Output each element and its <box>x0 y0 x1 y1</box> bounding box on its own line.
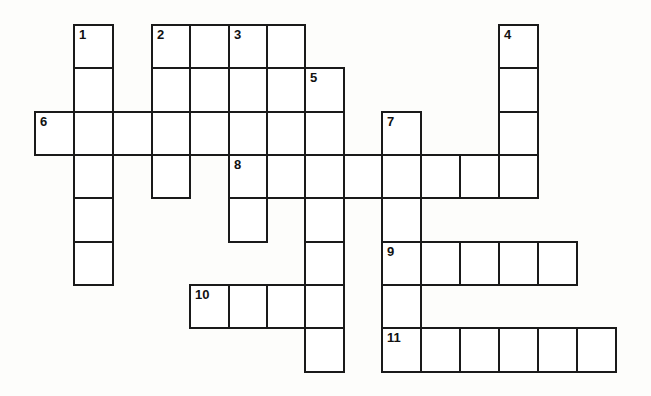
letter-input[interactable] <box>114 113 151 154</box>
crossword-cell[interactable] <box>266 154 306 199</box>
crossword-cell[interactable] <box>151 154 191 199</box>
crossword-cell[interactable] <box>73 154 114 199</box>
letter-input[interactable] <box>230 26 266 67</box>
crossword-cell[interactable] <box>498 241 539 286</box>
crossword-cell[interactable] <box>459 241 500 286</box>
letter-input[interactable] <box>306 69 343 111</box>
crossword-cell[interactable] <box>266 67 306 113</box>
crossword-cell[interactable] <box>304 327 345 373</box>
crossword-cell[interactable] <box>112 111 153 156</box>
letter-input[interactable] <box>578 329 615 371</box>
crossword-cell[interactable] <box>189 67 230 113</box>
crossword-cell[interactable] <box>266 24 306 69</box>
letter-input[interactable] <box>153 156 189 197</box>
letter-input[interactable] <box>500 26 537 67</box>
crossword-cell[interactable] <box>537 241 578 286</box>
letter-input[interactable] <box>230 286 266 327</box>
letter-input[interactable] <box>500 113 537 154</box>
letter-input[interactable] <box>268 26 304 67</box>
letter-input[interactable] <box>75 243 112 284</box>
crossword-cell[interactable] <box>73 241 114 286</box>
letter-input[interactable] <box>383 286 420 327</box>
letter-input[interactable] <box>345 156 381 197</box>
crossword-cell[interactable] <box>73 111 114 156</box>
letter-input[interactable] <box>153 69 189 111</box>
crossword-cell[interactable] <box>228 111 268 156</box>
letter-input[interactable] <box>75 156 112 197</box>
crossword-cell[interactable] <box>151 111 191 156</box>
letter-input[interactable] <box>191 26 228 67</box>
crossword-cell[interactable] <box>498 154 539 199</box>
letter-input[interactable] <box>230 199 266 241</box>
crossword-cell[interactable] <box>151 67 191 113</box>
crossword-cell[interactable] <box>189 111 230 156</box>
crossword-cell[interactable] <box>459 327 500 373</box>
crossword-cell[interactable] <box>304 284 345 329</box>
letter-input[interactable] <box>306 243 343 284</box>
letter-input[interactable] <box>268 286 304 327</box>
crossword-cell[interactable] <box>498 111 539 156</box>
letter-input[interactable] <box>383 199 420 241</box>
crossword-cell[interactable] <box>266 284 306 329</box>
crossword-cell[interactable]: 6 <box>34 111 75 156</box>
letter-input[interactable] <box>383 329 420 371</box>
crossword-cell[interactable] <box>381 197 422 243</box>
crossword-cell[interactable] <box>420 327 461 373</box>
letter-input[interactable] <box>75 113 112 154</box>
letter-input[interactable] <box>500 156 537 197</box>
crossword-cell[interactable] <box>420 154 461 199</box>
crossword-cell[interactable] <box>228 284 268 329</box>
crossword-cell[interactable]: 2 <box>151 24 191 69</box>
crossword-cell[interactable] <box>73 197 114 243</box>
letter-input[interactable] <box>191 69 228 111</box>
letter-input[interactable] <box>230 69 266 111</box>
crossword-cell[interactable] <box>304 197 345 243</box>
crossword-cell[interactable]: 9 <box>381 241 422 286</box>
letter-input[interactable] <box>461 329 498 371</box>
letter-input[interactable] <box>36 113 73 154</box>
crossword-cell[interactable] <box>381 154 422 199</box>
crossword-cell[interactable] <box>304 154 345 199</box>
letter-input[interactable] <box>153 113 189 154</box>
crossword-cell[interactable] <box>537 327 578 373</box>
letter-input[interactable] <box>422 329 459 371</box>
letter-input[interactable] <box>306 329 343 371</box>
crossword-cell[interactable] <box>73 67 114 113</box>
crossword-cell[interactable]: 7 <box>381 111 422 156</box>
crossword-cell[interactable] <box>228 197 268 243</box>
letter-input[interactable] <box>383 113 420 154</box>
crossword-cell[interactable]: 5 <box>304 67 345 113</box>
crossword-cell[interactable] <box>420 241 461 286</box>
crossword-cell[interactable]: 10 <box>189 284 230 329</box>
crossword-cell[interactable] <box>576 327 617 373</box>
letter-input[interactable] <box>268 113 304 154</box>
letter-input[interactable] <box>539 329 576 371</box>
crossword-cell[interactable] <box>498 327 539 373</box>
letter-input[interactable] <box>306 156 343 197</box>
crossword-cell[interactable]: 1 <box>73 24 114 69</box>
letter-input[interactable] <box>191 286 228 327</box>
letter-input[interactable] <box>422 156 459 197</box>
crossword-cell[interactable] <box>304 111 345 156</box>
letter-input[interactable] <box>268 156 304 197</box>
crossword-cell[interactable]: 3 <box>228 24 268 69</box>
letter-input[interactable] <box>75 199 112 241</box>
crossword-cell[interactable] <box>498 67 539 113</box>
letter-input[interactable] <box>383 156 420 197</box>
crossword-cell[interactable] <box>266 111 306 156</box>
letter-input[interactable] <box>75 69 112 111</box>
letter-input[interactable] <box>500 329 537 371</box>
letter-input[interactable] <box>500 243 537 284</box>
letter-input[interactable] <box>461 243 498 284</box>
letter-input[interactable] <box>383 243 420 284</box>
letter-input[interactable] <box>153 26 189 67</box>
letter-input[interactable] <box>191 113 228 154</box>
letter-input[interactable] <box>539 243 576 284</box>
crossword-cell[interactable] <box>189 24 230 69</box>
letter-input[interactable] <box>422 243 459 284</box>
crossword-cell[interactable] <box>459 154 500 199</box>
crossword-cell[interactable] <box>343 154 383 199</box>
crossword-cell[interactable] <box>304 241 345 286</box>
crossword-cell[interactable] <box>228 67 268 113</box>
letter-input[interactable] <box>306 199 343 241</box>
